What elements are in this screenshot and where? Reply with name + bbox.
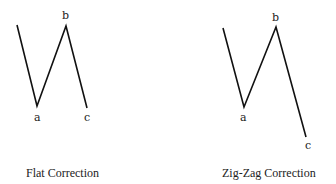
label-a: a xyxy=(34,111,41,124)
label-a: a xyxy=(240,111,247,124)
flat-correction-caption: Flat Correction xyxy=(26,166,99,180)
correction-diagrams: b a c Flat Correction b a c Zig-Zag Corr… xyxy=(0,0,336,184)
label-b: b xyxy=(62,9,69,22)
label-c: c xyxy=(84,111,90,124)
zigzag-correction-caption: Zig-Zag Correction xyxy=(222,166,316,180)
zigzag-correction-diagram: b a c Zig-Zag Correction xyxy=(222,11,316,180)
label-c: c xyxy=(305,139,311,152)
flat-correction-diagram: b a c Flat Correction xyxy=(17,9,99,180)
label-b: b xyxy=(272,11,279,24)
flat-correction-wave xyxy=(17,25,87,108)
zigzag-correction-wave xyxy=(223,27,306,137)
